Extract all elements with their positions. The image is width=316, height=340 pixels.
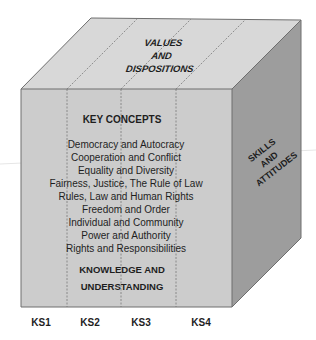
concept-item: Fairness, Justice, The Rule of Law [49,178,203,189]
concept-item: Power and Authority [81,230,171,241]
concept-item: Rights and Responsibilities [66,243,186,254]
concept-item: Rules, Law and Human Rights [58,191,193,202]
key-stage-label-ks1: KS1 [31,317,51,328]
top-label-line-2: AND [150,50,173,61]
citizenship-cube-diagram: VALUES AND DISPOSITIONS KEY CONCEPTS Dem… [0,0,316,340]
concept-item: Individual and Community [68,217,183,228]
key-concepts-heading: KEY CONCEPTS [83,114,162,125]
top-label-line-1: VALUES [144,37,184,48]
key-stage-label-ks2: KS2 [80,317,100,328]
concept-item: Democracy and Autocracy [68,139,185,150]
concept-item: Equality and Diversity [78,165,174,176]
concept-item: Cooperation and Conflict [71,152,181,163]
concept-item: Freedom and Order [82,204,170,215]
key-stage-label-ks3: KS3 [131,317,151,328]
key-stage-label-ks4: KS4 [191,317,211,328]
knowledge-label-line-1: KNOWLEDGE AND [79,264,165,275]
knowledge-label-line-2: UNDERSTANDING [81,281,164,292]
top-label-line-3: DISPOSITIONS [125,63,195,74]
